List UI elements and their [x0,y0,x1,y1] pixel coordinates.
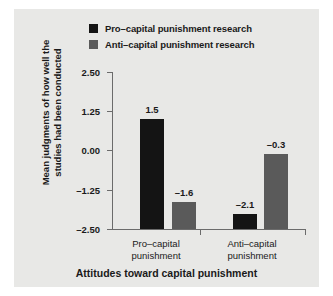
legend-item-anti-capital: Anti–capital punishment research [89,36,299,52]
x-group-label-anti-capital-line1: Anti–capital [227,238,276,250]
x-group-label-pro-capital-line2: punishment [131,250,180,262]
bar-pro-research-pro-attitude [140,119,164,229]
y-axis-spine [112,72,113,230]
bar-label-pro-research-anti-attitude: –2.1 [236,199,255,210]
y-tick-1: 1.25 [107,111,112,112]
bar-label-pro-research-pro-attitude: 1.5 [145,104,158,115]
bar-label-anti-research-pro-attitude: –1.6 [175,187,194,198]
x-group-label-anti-capital-line2: punishment [227,250,276,262]
x-axis-spine [112,229,306,230]
x-tick-end [305,230,306,235]
y-axis-title-line2: studies had been conducted [51,28,63,198]
y-tick-3: –1.25 [107,190,112,191]
plot-area: 2.50 1.25 0.00 –1.25 –2.50 1.5 –1.6 –2.1… [112,72,306,230]
legend-item-pro-capital: Pro–capital punishment research [89,20,299,36]
y-tick-label-3: –1.25 [76,185,100,196]
bar-anti-research-pro-attitude [172,202,196,229]
chart-legend: Pro–capital punishment research Anti–cap… [89,20,299,52]
bar-label-anti-research-anti-attitude: –0.3 [267,139,286,150]
legend-swatch-icon-pro-capital [89,24,98,33]
y-axis-title-line1: Mean judgments of how well the [40,28,52,198]
bar-pro-research-anti-attitude [233,214,257,229]
y-tick-label-2: 0.00 [82,145,101,156]
x-group-label-pro-capital-line1: Pro–capital [131,238,180,250]
legend-label-anti-capital: Anti–capital punishment research [105,39,254,50]
y-tick-0: 2.50 [107,72,112,73]
x-group-label-anti-capital: Anti–capital punishment [227,238,276,261]
y-tick-label-0: 2.50 [82,67,101,78]
chart-figure: Pro–capital punishment research Anti–cap… [14,9,319,287]
x-group-label-pro-capital: Pro–capital punishment [131,238,180,261]
x-tick-group-separator [200,230,201,235]
y-axis-title: Mean judgments of how well the studies h… [40,28,63,198]
legend-swatch-icon-anti-capital [89,40,98,49]
y-tick-2: 0.00 [107,150,112,151]
x-axis-title: Attitudes toward capital punishment [14,267,319,279]
y-tick-label-4: –2.50 [76,224,100,235]
y-tick-4: –2.50 [107,229,112,230]
bar-anti-research-anti-attitude [264,154,288,229]
y-tick-label-1: 1.25 [82,106,101,117]
legend-label-pro-capital: Pro–capital punishment research [105,23,252,34]
